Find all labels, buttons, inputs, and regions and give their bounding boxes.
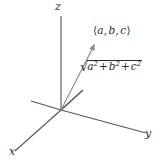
vector-comma-1: , — [104, 24, 108, 36]
negative-x-axis-line — [61, 90, 83, 110]
y-axis-line — [61, 110, 146, 133]
magnitude-exp-c: 2 — [137, 60, 141, 68]
z-axis-label: z — [55, 1, 61, 12]
radical-sign-icon: √ — [80, 59, 87, 74]
position-vector-arrow — [61, 45, 95, 111]
radicand: a2+b2+c2 — [87, 60, 142, 72]
magnitude-plus-1: + — [98, 60, 109, 72]
magnitude-plus-2: + — [120, 60, 131, 72]
angle-bracket-close-icon: ⟩ — [126, 24, 130, 36]
radical-expression: √a2+b2+c2 — [80, 59, 142, 72]
vector-point-label: ⟨a, b, c⟩ — [93, 25, 131, 36]
vector-magnitude-label: √a2+b2+c2 — [80, 59, 142, 72]
y-axis-label: y — [145, 128, 151, 139]
magnitude-term-b: b — [109, 60, 116, 72]
x-axis-label: x — [9, 146, 15, 157]
negative-y-axis-line — [31, 101, 61, 110]
coordinate-axes-graphic — [0, 0, 163, 164]
vector-magnitude-figure: z y x ⟨a, b, c⟩ √a2+b2+c2 — [0, 0, 163, 164]
x-axis-line — [15, 110, 61, 151]
vector-comma-2: , — [115, 24, 119, 36]
